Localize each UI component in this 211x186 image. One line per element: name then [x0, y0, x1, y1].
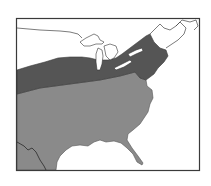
range-map — [0, 0, 211, 186]
